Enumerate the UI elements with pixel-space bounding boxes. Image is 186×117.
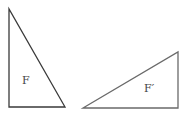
- label-f-prime: F′: [144, 82, 155, 95]
- triangle-f-prime: [83, 52, 178, 108]
- label-f: F: [22, 74, 30, 87]
- figure-f: F: [9, 9, 65, 107]
- triangle-f: [9, 9, 65, 107]
- transformation-diagram: F F′: [0, 0, 186, 117]
- figure-f-prime: F′: [83, 52, 178, 108]
